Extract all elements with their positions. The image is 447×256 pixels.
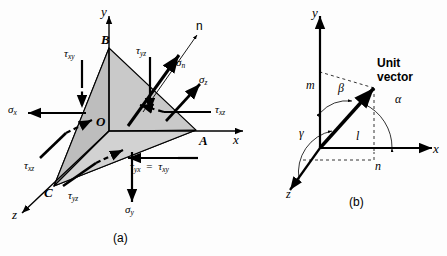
stress-label-sigma-n: σn	[176, 57, 185, 69]
angle-label-gamma: γ	[299, 127, 304, 139]
panel-a-graphics	[22, 16, 243, 213]
direction-cosine-label-l: l	[356, 130, 359, 142]
angle-label-beta: β	[338, 82, 344, 94]
axis-label-z-a: z	[12, 208, 17, 221]
stress-label-tau-xz-left: τxz	[24, 160, 34, 172]
stress-label-tau-yz-upper: τyz	[136, 45, 146, 57]
unit-vector-label-line1: Unit	[377, 57, 400, 69]
vertex-label-B: B	[101, 33, 110, 46]
normal-label-n: n	[196, 20, 203, 32]
direction-cosine-label-n: n	[375, 160, 381, 172]
direction-cosine-label-m: m	[306, 79, 315, 91]
stress-label-sigma-z: σz	[199, 74, 207, 86]
panel-caption-a: (a)	[113, 232, 128, 244]
axis-label-z-b: z	[286, 188, 291, 200]
tetrahedron-faces	[54, 48, 196, 186]
stress-label-sigma-y: σy	[125, 204, 134, 216]
figure-canvas: y x z B O A C n τxy τyz σn σz τxz σx τxz…	[0, 0, 447, 256]
vertex-label-C: C	[44, 186, 53, 199]
figure-vector-graphics	[0, 0, 447, 256]
axis-z-line	[22, 131, 109, 213]
axis-label-x-a: x	[233, 133, 239, 146]
angle-label-alpha: α	[395, 93, 401, 105]
unit-vector-label-line2: vector	[377, 71, 413, 83]
unit-vector-arrow	[320, 88, 374, 148]
projection-to-y-dashed	[320, 72, 374, 88]
stress-label-sigma-x: σx	[8, 104, 17, 116]
angle-beta-arc	[320, 101, 352, 113]
stress-label-tau-xz-right: τxz	[215, 104, 225, 116]
angle-alpha-arc	[364, 104, 392, 148]
axis-z-line-b	[290, 148, 320, 190]
panel-b-graphics	[290, 16, 432, 190]
axis-label-x-b: x	[433, 142, 439, 155]
stress-label-tau-xy: τxy	[64, 48, 75, 60]
vertex-label-O: O	[96, 115, 105, 128]
stress-equality-tau-yx-tau-xy: τyx = τxy	[130, 161, 169, 173]
tau-xz-left-arrow	[40, 133, 66, 158]
axis-label-y-b: y	[312, 6, 318, 19]
stress-label-tau-yz-lower: τyz	[68, 190, 78, 202]
panel-caption-b: (b)	[349, 196, 364, 208]
sigma-z-arrow	[166, 84, 200, 121]
vertex-label-A: A	[199, 134, 208, 147]
axis-label-y-a: y	[101, 5, 107, 18]
